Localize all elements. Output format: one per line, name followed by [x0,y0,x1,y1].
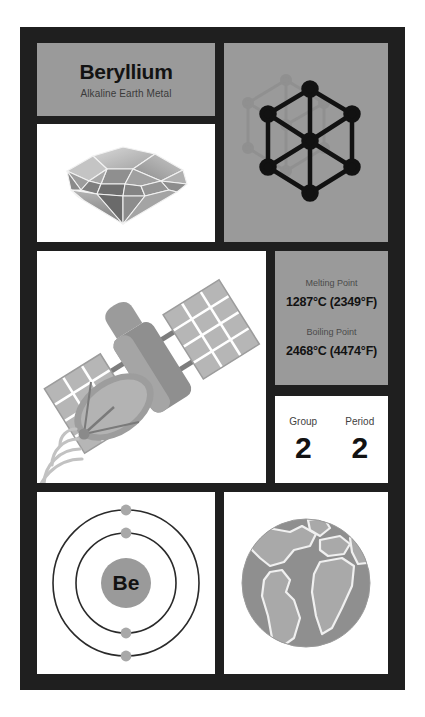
gemstone-panel [37,124,215,242]
melting-point-value: 1287°C (2349°F) [286,296,377,309]
group-block: Group 2 [275,417,332,463]
group-period-panel: Group 2 Period 2 [275,396,388,483]
period-label: Period [345,417,374,427]
hexagonal-crystal-lattice-icon [224,43,388,242]
boiling-point-value: 2468°C (4474°F) [286,345,377,358]
satellite-panel [37,251,266,483]
element-symbol: Be [113,571,140,594]
temperature-panel: Melting Point 1287°C (2349°F) Boiling Po… [275,251,388,385]
group-value: 2 [295,433,312,463]
title-panel: Beryllium Alkaline Earth Metal [37,43,215,116]
gemstone-icon [37,124,215,242]
melting-point-label: Melting Point [305,279,357,288]
period-block: Period 2 [332,417,389,463]
crystal-lattice-panel [224,43,388,242]
satellite-icon [37,251,266,483]
bohr-model-panel: Be [37,492,215,674]
earth-globe-panel [224,492,388,674]
earth-globe-icon [224,492,388,674]
boiling-point-label: Boiling Point [306,328,356,337]
period-value: 2 [351,433,368,463]
bohr-model-icon: Be [37,492,215,674]
element-infographic-card: Beryllium Alkaline Earth Metal [20,27,405,690]
page-title: Beryllium [80,61,173,82]
element-category-label: Alkaline Earth Metal [81,89,172,99]
group-label: Group [289,417,317,427]
